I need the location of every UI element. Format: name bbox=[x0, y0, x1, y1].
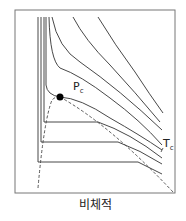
critical-pressure-label: Pc bbox=[73, 80, 84, 95]
plot-frame bbox=[15, 10, 175, 193]
x-axis-label: 비체적 bbox=[0, 195, 186, 212]
critical-point bbox=[57, 94, 64, 101]
isotherm-1 bbox=[38, 17, 162, 174]
pv-diagram bbox=[0, 0, 186, 221]
isotherm-6 bbox=[52, 17, 162, 130]
critical-temp-label: Tc bbox=[163, 137, 174, 152]
isotherm-3 bbox=[44, 17, 162, 158]
critical-isotherm bbox=[46, 17, 162, 150]
isotherm-8 bbox=[98, 17, 163, 113]
isotherm-7 bbox=[73, 17, 160, 122]
isotherms bbox=[38, 17, 163, 174]
saturation-dome bbox=[38, 97, 173, 192]
